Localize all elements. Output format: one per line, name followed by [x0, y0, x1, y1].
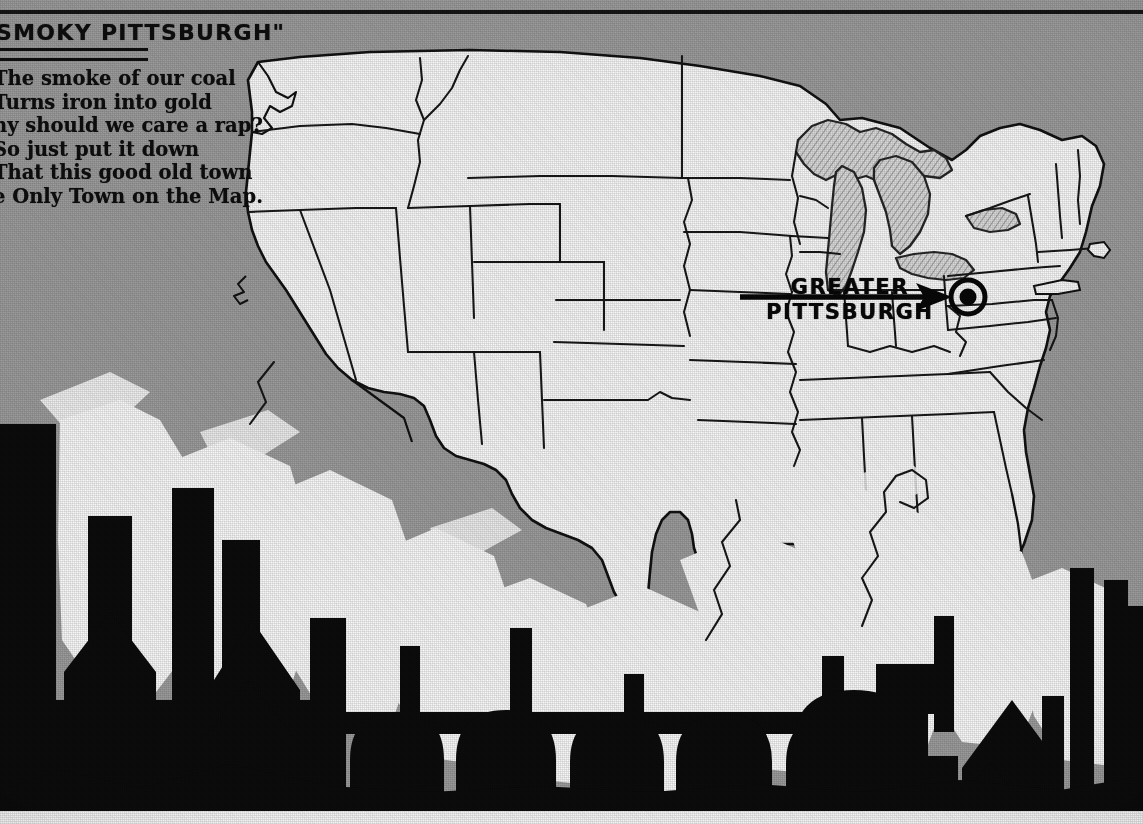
- verse-line: hy should we care a rap?: [0, 114, 300, 138]
- callout-line-2: PITTSBURGH: [766, 300, 934, 325]
- verse-line: That this good old town: [0, 161, 300, 185]
- verse-line: Turns iron into gold: [0, 91, 300, 115]
- top-border-rule: [0, 10, 1143, 14]
- verse-line: e Only Town on the Map.: [0, 185, 300, 209]
- verse-list: The smoke of our coal Turns iron into go…: [0, 67, 300, 208]
- poster-illustration: SMOKY PITTSBURGH" The smoke of our coal …: [0, 0, 1143, 824]
- title-underline-rule: [0, 48, 148, 61]
- pittsburgh-marker-icon: [951, 280, 985, 314]
- callout-line-1: GREATER: [766, 275, 934, 300]
- page-title: SMOKY PITTSBURGH": [0, 20, 300, 45]
- verse-line: So just put it down: [0, 138, 300, 162]
- verse-line: The smoke of our coal: [0, 67, 300, 91]
- greater-pittsburgh-label: GREATER PITTSBURGH: [766, 275, 934, 325]
- masthead: SMOKY PITTSBURGH" The smoke of our coal …: [0, 14, 300, 208]
- bottom-border-rule: [0, 811, 1143, 824]
